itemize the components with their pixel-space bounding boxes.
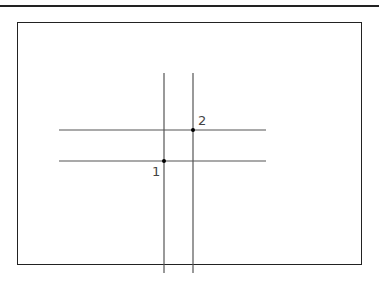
drawing-canvas (0, 0, 379, 303)
point-1-marker (162, 159, 166, 163)
point-2-label: 2 (198, 114, 206, 127)
point-2-marker (191, 128, 195, 132)
point-1-label: 1 (152, 165, 160, 178)
